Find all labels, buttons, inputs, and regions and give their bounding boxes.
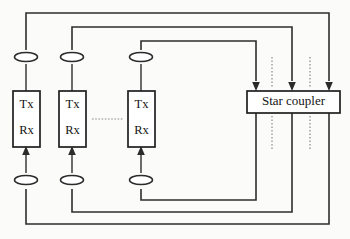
terminal-2-rx-label: Rx: [65, 123, 80, 137]
tap-bottom-3-lens-icon: [130, 175, 153, 184]
terminal-n-rx-label: Rx: [134, 123, 149, 137]
tap-bottom-1-lens-icon: [15, 175, 38, 184]
terminal-n-tx-label: Tx: [135, 97, 150, 111]
tap-bottom-2-lens-icon: [61, 175, 84, 184]
diagram-canvas: Tx Rx Tx Rx Tx Rx Star coupler: [0, 0, 350, 239]
terminal-1-tx-label: Tx: [20, 97, 35, 111]
coupler-input-2-arrow-icon: [288, 82, 296, 91]
tap-top-1-lens-icon: [15, 52, 38, 61]
tx-path-terminal-2: [72, 27, 292, 81]
tap-top-2-lens-icon: [61, 52, 84, 61]
terminal-2[interactable]: Tx Rx: [59, 91, 86, 147]
coupler-input-3-arrow-icon: [325, 82, 333, 91]
rx-path-terminal-2: [72, 113, 292, 212]
terminal-1[interactable]: Tx Rx: [13, 91, 40, 147]
terminal-1-rx-label: Rx: [19, 123, 34, 137]
star-coupler-diagram: Tx Rx Tx Rx Tx Rx Star coupler: [0, 0, 350, 239]
rx-path-terminal-n: [141, 113, 256, 200]
tap-top-3-lens-icon: [130, 52, 153, 61]
tx-path-terminal-n: [141, 41, 256, 81]
star-coupler[interactable]: Star coupler: [247, 91, 340, 113]
star-coupler-label: Star coupler: [262, 93, 326, 108]
coupler-input-1-arrow-icon: [252, 82, 260, 91]
terminal-2-tx-label: Tx: [66, 97, 81, 111]
terminal-n[interactable]: Tx Rx: [128, 91, 155, 147]
